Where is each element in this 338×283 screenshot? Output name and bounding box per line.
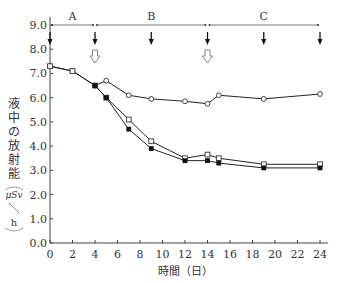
- data-point-square-open: [149, 139, 154, 144]
- open-arrow-icon: [203, 50, 213, 63]
- data-point-circle-open: [216, 93, 221, 98]
- phase-dot: [317, 24, 319, 26]
- series-line-open-square: [50, 66, 320, 164]
- phase-dot: [51, 24, 53, 26]
- phase-dot: [205, 24, 207, 26]
- data-point-square-filled: [93, 83, 98, 88]
- phase-label: B: [147, 10, 155, 23]
- phase-dot: [209, 24, 211, 26]
- x-tick-label: 24: [313, 248, 327, 261]
- x-tick-label: 14: [201, 248, 215, 261]
- chart: 0.01.02.03.04.05.06.07.08.09.00246810121…: [0, 0, 338, 283]
- axes: 0.01.02.03.04.05.06.07.08.09.00246810121…: [30, 17, 329, 261]
- x-tick-label: 10: [156, 248, 170, 261]
- y-unit-numerator: μSv: [5, 190, 22, 200]
- data-point-square-filled: [205, 158, 210, 163]
- data-point-circle-open: [205, 101, 210, 106]
- data-point-circle-open: [149, 96, 154, 101]
- y-label-char: 中: [8, 110, 20, 125]
- data-point-circle-open: [318, 92, 323, 97]
- data-point-square-open: [48, 64, 53, 69]
- y-tick-label: 3.0: [30, 164, 48, 177]
- data-point-square-filled: [104, 95, 109, 100]
- y-unit-denominator: h: [11, 217, 18, 228]
- solid-arrow-icon: [149, 39, 154, 45]
- data-point-circle-open: [126, 93, 131, 98]
- y-tick-label: 2.0: [30, 189, 48, 202]
- data-point-circle-open: [261, 96, 266, 101]
- y-tick-label: 5.0: [30, 116, 48, 129]
- data-point-square-filled: [216, 161, 221, 166]
- data-point-square-open: [205, 152, 210, 157]
- data-point-square-filled: [126, 127, 131, 132]
- arrows: [48, 32, 323, 63]
- y-label-char: 能: [8, 167, 20, 181]
- solid-arrow-icon: [261, 39, 266, 45]
- x-tick-label: 12: [178, 248, 192, 261]
- phase-label: C: [260, 10, 268, 23]
- solid-arrow-icon: [93, 39, 98, 45]
- phase-dot: [92, 24, 94, 26]
- solid-arrow-icon: [48, 39, 53, 45]
- open-arrow-icon: [90, 50, 100, 63]
- y-tick-label: 1.0: [30, 213, 48, 226]
- solid-arrow-icon: [205, 39, 210, 45]
- y-unit-bracket: [5, 228, 23, 231]
- x-tick-label: 20: [268, 248, 282, 261]
- y-tick-label: 4.0: [30, 140, 48, 153]
- data-point-square-open: [126, 117, 131, 122]
- x-axis-label: 時間（日）: [158, 265, 213, 278]
- y-label-char: の: [8, 125, 20, 139]
- solid-arrow-icon: [318, 39, 323, 45]
- y-tick-label: 9.0: [30, 19, 48, 32]
- phase-bar: ABC: [51, 10, 319, 26]
- x-tick-label: 4: [92, 248, 99, 261]
- y-tick-label: 6.0: [30, 92, 48, 105]
- phase-label: A: [68, 10, 78, 23]
- y-label-char: 液: [8, 96, 20, 111]
- y-unit-slash: [9, 203, 19, 213]
- data-point-square-filled: [149, 146, 154, 151]
- data-point-circle-open: [104, 78, 109, 83]
- data-point-square-filled: [183, 158, 188, 163]
- data-point-square-filled: [318, 166, 323, 171]
- y-tick-label: 0.0: [30, 237, 48, 250]
- x-tick-label: 8: [137, 248, 144, 261]
- y-tick-label: 8.0: [30, 43, 48, 56]
- data-point-square-open: [216, 156, 221, 161]
- series: [48, 64, 323, 171]
- data-point-square-open: [70, 69, 75, 74]
- y-tick-label: 7.0: [30, 67, 48, 80]
- x-tick-label: 16: [223, 248, 237, 261]
- y-axis-label: 液中の放射能μSvh: [5, 96, 23, 231]
- y-label-char: 放: [8, 138, 20, 153]
- series-line-open-circle: [50, 66, 320, 104]
- x-tick-label: 2: [69, 248, 76, 261]
- data-point-square-filled: [261, 166, 266, 171]
- phase-dot: [96, 24, 98, 26]
- y-label-char: 射: [8, 152, 20, 167]
- x-tick-label: 22: [291, 248, 305, 261]
- data-point-circle-open: [183, 99, 188, 104]
- x-tick-label: 18: [246, 248, 260, 261]
- x-tick-label: 0: [47, 248, 54, 261]
- x-tick-label: 6: [114, 248, 121, 261]
